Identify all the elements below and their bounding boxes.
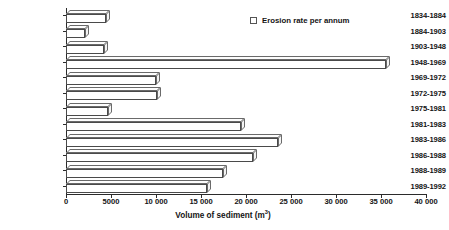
bar-front-face (66, 184, 207, 193)
plot-area (66, 8, 426, 194)
legend-label: Erosion rate per annum (262, 16, 350, 25)
value-tick-label: 10 000 (133, 197, 179, 206)
legend-swatch-icon (250, 17, 257, 24)
bar-front-face (66, 14, 106, 23)
bar (66, 165, 223, 176)
bar (66, 41, 104, 52)
bar-side-face (241, 118, 245, 131)
value-tick-label: 20 000 (223, 197, 269, 206)
bar (66, 134, 278, 145)
bar (66, 10, 106, 21)
bar-side-face (278, 134, 282, 147)
bar-front-face (66, 122, 241, 131)
bar (66, 149, 253, 160)
bar-side-face (108, 103, 112, 116)
value-tick-label: 25 000 (268, 197, 314, 206)
bar-front-face (66, 138, 278, 147)
bar-side-face (207, 180, 211, 193)
bar-front-face (66, 169, 223, 178)
bar (66, 103, 108, 114)
value-tick-label: 5000 (88, 197, 134, 206)
bar (66, 72, 156, 83)
value-tick-label: 35 000 (358, 197, 404, 206)
bar (66, 87, 157, 98)
bar (66, 118, 241, 129)
bar-front-face (66, 29, 85, 38)
value-tick-label: 15 000 (178, 197, 224, 206)
value-tick-label: 30 000 (313, 197, 359, 206)
bar-side-face (386, 56, 390, 69)
bar-front-face (66, 45, 104, 54)
bar-side-face (157, 87, 161, 100)
bar-front-face (66, 153, 253, 162)
bar-front-face (66, 107, 108, 116)
bar-side-face (156, 72, 160, 85)
chart-legend: Erosion rate per annum (250, 16, 350, 25)
bar (66, 56, 386, 67)
bar-side-face (253, 149, 257, 162)
x-axis-title-text: Volume of sediment (m3) (175, 211, 270, 220)
value-tick-label: 40 000 (403, 197, 449, 206)
bar-front-face (66, 91, 157, 100)
value-tick-label: 0 (43, 197, 89, 206)
bar-side-face (85, 25, 89, 38)
x-axis-title: Volume of sediment (m3) (0, 209, 446, 220)
bar-front-face (66, 60, 386, 69)
bar (66, 180, 207, 191)
bar-front-face (66, 76, 156, 85)
bar (66, 25, 85, 36)
